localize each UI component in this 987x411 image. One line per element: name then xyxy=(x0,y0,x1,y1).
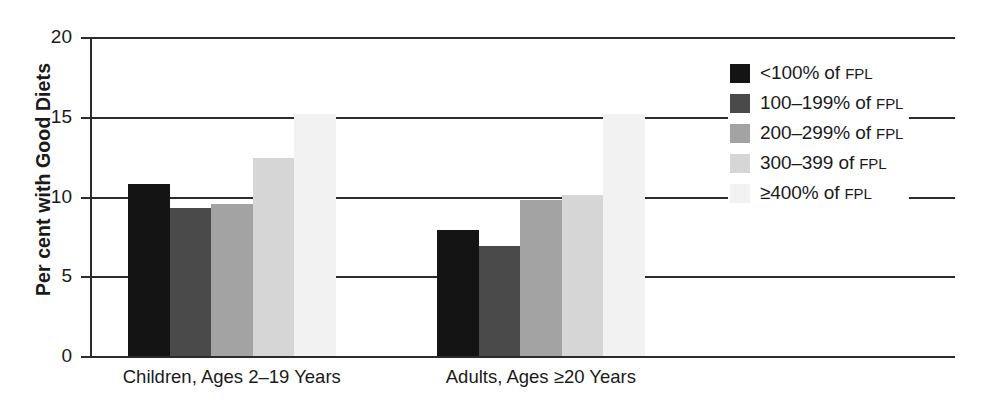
x-axis-group-label: Children, Ages 2–19 Years xyxy=(123,366,341,388)
legend-label: 100–199% of FPL xyxy=(760,92,903,114)
legend-item[interactable]: ≥400% of FPL xyxy=(730,178,903,208)
legend-swatch-icon xyxy=(730,94,750,113)
y-tick-label: 10 xyxy=(38,187,72,206)
legend-label-abbrev: FPL xyxy=(845,65,872,82)
bar xyxy=(479,246,521,356)
bar xyxy=(437,230,479,356)
y-axis-title: Per cent with Good Diets xyxy=(32,25,55,335)
y-tick-label: 0 xyxy=(38,346,72,365)
y-tick-label: 15 xyxy=(38,107,72,126)
legend: <100% of FPL100–199% of FPL200–299% of F… xyxy=(728,56,909,212)
gridline xyxy=(90,356,955,358)
y-tick-mark xyxy=(81,276,90,278)
gridline xyxy=(90,37,955,39)
y-tick-mark xyxy=(81,356,90,358)
legend-label: 300–399 of FPL xyxy=(760,152,887,174)
legend-item[interactable]: <100% of FPL xyxy=(730,58,903,88)
legend-label: <100% of FPL xyxy=(760,62,872,84)
bar xyxy=(603,114,645,356)
legend-label: ≥400% of FPL xyxy=(760,182,872,204)
bar xyxy=(520,200,562,356)
legend-item[interactable]: 300–399 of FPL xyxy=(730,148,903,178)
legend-label-abbrev: FPL xyxy=(845,185,872,202)
y-tick-label: 5 xyxy=(38,266,72,285)
y-tick-label: 20 xyxy=(38,27,72,46)
bar xyxy=(253,158,295,356)
bar xyxy=(170,208,212,356)
y-tick-mark xyxy=(81,197,90,199)
legend-swatch-icon xyxy=(730,64,750,83)
legend-item[interactable]: 100–199% of FPL xyxy=(730,88,903,118)
legend-label-abbrev: FPL xyxy=(876,95,903,112)
legend-swatch-icon xyxy=(730,124,750,143)
x-axis-group-label: Adults, Ages ≥20 Years xyxy=(446,366,636,388)
bar xyxy=(211,204,253,356)
legend-item[interactable]: 200–299% of FPL xyxy=(730,118,903,148)
bar-chart: Per cent with Good Diets 05101520 Childr… xyxy=(0,0,987,411)
legend-label-abbrev: FPL xyxy=(859,155,886,172)
legend-swatch-icon xyxy=(730,184,750,203)
bar xyxy=(128,184,170,356)
legend-label: 200–299% of FPL xyxy=(760,122,903,144)
y-tick-mark xyxy=(81,37,90,39)
y-tick-mark xyxy=(81,117,90,119)
legend-swatch-icon xyxy=(730,154,750,173)
bar xyxy=(294,114,336,356)
bar xyxy=(562,195,604,356)
legend-label-abbrev: FPL xyxy=(876,125,903,142)
